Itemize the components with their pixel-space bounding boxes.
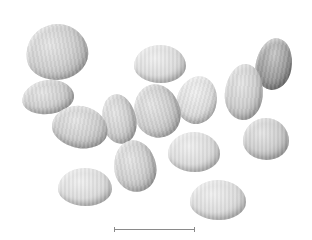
seed	[190, 180, 246, 220]
seed	[134, 45, 186, 83]
seed	[128, 79, 186, 143]
scale-bar	[114, 229, 195, 230]
seed-photograph	[0, 0, 312, 240]
seed	[22, 19, 93, 85]
seed	[243, 118, 289, 160]
seed	[168, 132, 220, 172]
seed	[110, 137, 160, 196]
seed	[58, 168, 112, 206]
